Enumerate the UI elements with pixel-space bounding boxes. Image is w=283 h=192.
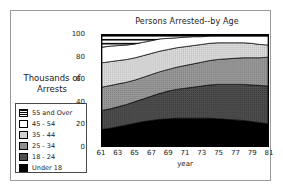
legend-item-label: 45 - 54 — [32, 120, 55, 128]
y-tick-label: 80 — [65, 53, 85, 61]
x-tick-label: 81 — [265, 149, 274, 157]
chart-figure: Persons Arrested--by Age Thousands of Ar… — [10, 10, 271, 181]
legend-item[interactable]: 35 - 44 — [19, 129, 86, 140]
legend-swatch-icon — [19, 120, 28, 128]
x-tick-label: 77 — [231, 149, 240, 157]
x-tick-label: 71 — [181, 149, 190, 157]
legend-item[interactable]: 55 and Over — [19, 107, 86, 118]
x-axis-label: year — [101, 160, 269, 168]
y-tick-label: 20 — [65, 120, 85, 128]
x-tick-label: 73 — [197, 149, 206, 157]
chart-legend: 55 and Over45 - 5435 - 4425 - 3418 - 24U… — [15, 103, 87, 173]
plot-area — [101, 34, 269, 147]
x-tick-label: 63 — [113, 149, 122, 157]
chart-title: Persons Arrested--by Age — [107, 17, 267, 26]
x-tick-label: 67 — [147, 149, 156, 157]
x-tick-label: 69 — [164, 149, 173, 157]
legend-item-label: 55 and Over — [32, 109, 72, 117]
legend-item-label: 18 - 24 — [32, 153, 55, 161]
legend-swatch-icon — [19, 164, 28, 172]
plot-wrapper: 020406080100 6163656769717375777981 year — [89, 32, 269, 162]
y-tick-label: 60 — [65, 75, 85, 83]
legend-item[interactable]: 18 - 24 — [19, 151, 86, 162]
y-tick-label: 40 — [65, 98, 85, 106]
legend-item-label: 35 - 44 — [32, 131, 55, 139]
x-tick-label: 65 — [130, 149, 139, 157]
legend-swatch-icon — [19, 109, 28, 117]
x-tick-label: 79 — [248, 149, 257, 157]
legend-swatch-icon — [19, 131, 28, 139]
legend-swatch-icon — [19, 142, 28, 150]
legend-item[interactable]: Under 18 — [19, 162, 86, 173]
legend-item-label: Under 18 — [32, 164, 62, 172]
legend-swatch-icon — [19, 153, 28, 161]
y-tick-label: 100 — [65, 30, 85, 38]
x-tick-label: 75 — [214, 149, 223, 157]
stacked-area-svg — [102, 35, 268, 146]
legend-heading-line2: Arrests — [15, 84, 89, 95]
legend-item-label: 25 - 34 — [32, 142, 55, 150]
y-tick-label: 0 — [65, 143, 85, 151]
x-tick-label: 61 — [97, 149, 106, 157]
